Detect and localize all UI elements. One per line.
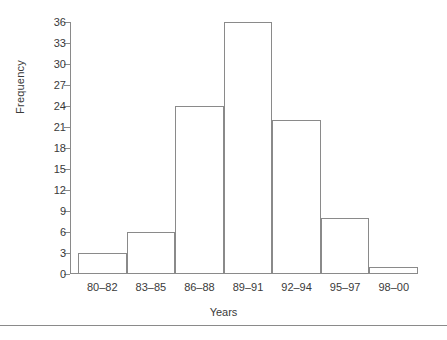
y-tick-label: 27 [36, 80, 66, 91]
x-tick-label: 92–94 [272, 282, 321, 293]
y-tick-label: 0 [36, 269, 66, 280]
y-tick-label: 18 [36, 143, 66, 154]
bar [321, 218, 370, 274]
x-tick-label: 95–97 [321, 282, 370, 293]
y-tick-label: 12 [36, 185, 66, 196]
y-tick-label: 15 [36, 164, 66, 175]
y-tick-label: 3 [36, 248, 66, 259]
x-axis-title: Years [0, 306, 447, 318]
y-tick-label: 21 [36, 122, 66, 133]
y-tick-label: 9 [36, 206, 66, 217]
histogram-figure: Frequency 0369121518212427303336 80–8283… [0, 0, 447, 340]
bar [175, 106, 224, 274]
x-tick-label: 80–82 [78, 282, 127, 293]
bar [224, 22, 273, 274]
bar [127, 232, 176, 274]
bar [369, 267, 418, 274]
y-axis-line [70, 22, 71, 274]
x-tick-label: 86–88 [175, 282, 224, 293]
x-tick-label: 83–85 [127, 282, 176, 293]
y-tick-label: 24 [36, 101, 66, 112]
y-tick-label: 30 [36, 59, 66, 70]
y-axis-title: Frequency [14, 45, 30, 129]
x-tick-label: 98–00 [369, 282, 418, 293]
y-tick-label: 6 [36, 227, 66, 238]
footer-divider [0, 325, 447, 326]
bar [78, 253, 127, 274]
bar [272, 120, 321, 274]
plot-area: 0369121518212427303336 [70, 22, 418, 274]
y-tick-label: 33 [36, 38, 66, 49]
x-tick-label: 89–91 [224, 282, 273, 293]
y-tick-label: 36 [36, 17, 66, 28]
